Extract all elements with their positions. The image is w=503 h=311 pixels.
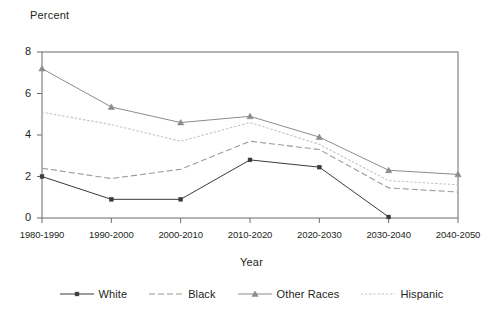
y-axis-tick-label: 0	[11, 211, 31, 223]
x-axis-tick-label: 1980-1990	[9, 229, 75, 240]
legend-item-black[interactable]: Black	[149, 288, 215, 300]
x-axis-tick-label: 2040-2050	[425, 229, 491, 240]
data-point-marker-triangle	[39, 66, 45, 72]
series-line	[42, 112, 458, 185]
x-axis-tick-label: 2000-2010	[148, 229, 214, 240]
legend-label: Other Races	[277, 288, 340, 300]
chart-legend: WhiteBlackOther RacesHispanic	[0, 288, 503, 300]
series-hispanic	[42, 112, 458, 185]
series-white	[42, 160, 389, 217]
data-point-marker-square	[248, 158, 252, 162]
legend-item-white[interactable]: White	[60, 288, 128, 300]
x-axis-title: Year	[0, 256, 503, 268]
plot-frame	[42, 52, 458, 218]
data-point-marker-square	[387, 215, 391, 219]
legend-swatch-dashed	[149, 289, 183, 299]
series-line	[42, 141, 458, 192]
legend-swatch-solid-triangle	[238, 289, 272, 299]
legend-label: Black	[188, 288, 215, 300]
legend-item-other-races[interactable]: Other Races	[238, 288, 340, 300]
y-axis-tick-label: 4	[11, 128, 31, 140]
data-point-marker-square	[40, 175, 44, 179]
x-axis-tick-label: 2030-2040	[356, 229, 422, 240]
legend-swatch-solid-square	[60, 289, 94, 299]
data-point-marker-square	[109, 197, 113, 201]
x-axis-tick-label: 2020-2030	[286, 229, 352, 240]
data-point-marker-triangle	[108, 104, 114, 110]
legend-item-hispanic[interactable]: Hispanic	[361, 288, 443, 300]
x-axis-tick-label: 2010-2020	[217, 229, 283, 240]
legend-label: White	[99, 288, 128, 300]
data-point-marker-triangle	[247, 113, 253, 119]
y-axis-tick-label: 6	[11, 87, 31, 99]
data-point-marker-square	[317, 165, 321, 169]
y-axis-tick-label: 8	[11, 45, 31, 57]
data-point-marker-square	[179, 197, 183, 201]
x-axis-tick-label: 1990-2000	[78, 229, 144, 240]
legend-label: Hispanic	[400, 288, 443, 300]
series-black	[42, 141, 458, 192]
series-line	[42, 160, 389, 217]
line-chart: Percent 02468 1980-19901990-20002000-201…	[0, 0, 503, 311]
y-axis-tick-label: 2	[11, 170, 31, 182]
legend-swatch-dotted	[361, 289, 395, 299]
